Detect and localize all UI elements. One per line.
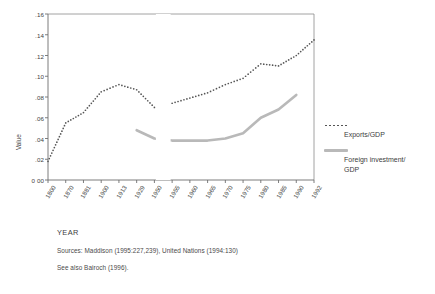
data-point-exports [285, 61, 287, 63]
y-tick-label: .08 [35, 94, 44, 101]
legend-label-exports: Exports/GDP [344, 130, 432, 140]
data-point-exports [55, 144, 57, 146]
x-tick-label: 1965 [203, 184, 216, 200]
y-tick-label: .10 [35, 73, 44, 80]
data-point-exports [130, 87, 132, 89]
data-point-exports [222, 85, 224, 87]
data-point-exports [92, 100, 94, 102]
y-tick-label: .02 [35, 156, 44, 163]
data-point-exports [96, 96, 98, 98]
data-point-exports [210, 91, 212, 93]
y-tick-label: .14 [35, 31, 44, 38]
data-point-exports [60, 133, 62, 135]
x-tick-label: 1955 [168, 184, 181, 200]
data-point-exports [57, 139, 59, 141]
data-point-exports [255, 67, 257, 69]
data-point-exports [127, 86, 129, 88]
data-point-exports [85, 109, 87, 111]
x-tick-label: 1985 [274, 184, 287, 200]
data-point-exports [90, 102, 92, 104]
data-point-exports [189, 97, 191, 99]
x-tick-label: 1975 [239, 184, 252, 200]
y-tick-label: .16 [35, 11, 44, 18]
data-point-exports [145, 98, 147, 100]
data-point-exports [180, 100, 182, 102]
data-point-exports [224, 84, 226, 86]
data-point-exports [227, 83, 229, 85]
data-point-exports [83, 112, 85, 114]
data-point-exports [136, 89, 138, 91]
data-point-exports [216, 88, 218, 90]
data-point-exports [133, 88, 135, 90]
data-point-exports [266, 64, 268, 66]
data-point-exports [278, 65, 280, 67]
data-point-exports [72, 118, 74, 120]
data-point-exports [118, 84, 120, 86]
data-point-exports [59, 136, 61, 138]
data-point-exports [302, 49, 304, 51]
data-point-exports [53, 147, 55, 149]
data-point-exports [121, 85, 123, 87]
chart-legend: Exports/GDP Foreign investment/ GDP [322, 124, 432, 175]
data-point-exports [177, 101, 179, 103]
data-point-exports [78, 115, 80, 117]
y-tick-label: 0 00 [32, 177, 44, 184]
x-tick-label: 1992 [310, 184, 323, 200]
data-point-exports [239, 79, 241, 81]
x-tick-label: 1960 [185, 184, 198, 200]
data-point-exports [47, 160, 49, 162]
data-point-exports [100, 91, 102, 93]
data-point-exports [290, 58, 292, 60]
data-point-exports [61, 130, 63, 132]
caption-block: YEAR Sources: Maddison (1995:227,239), U… [57, 228, 407, 271]
data-point-exports [106, 89, 108, 91]
data-point-exports [204, 93, 206, 95]
data-point-exports [115, 85, 117, 87]
data-point-exports [56, 141, 58, 143]
y-tick-marks [45, 14, 48, 180]
data-point-exports [275, 65, 277, 67]
data-point-exports [250, 71, 252, 73]
data-point-exports [186, 98, 188, 100]
plot-frame [48, 14, 314, 180]
data-point-exports [245, 75, 247, 77]
plot-area: 0 00.02.04.06.08.10.12.14.16 18001870188… [48, 14, 314, 180]
data-point-exports [112, 86, 114, 88]
data-point-exports [280, 64, 282, 66]
data-point-exports [67, 121, 69, 123]
data-point-exports [309, 43, 311, 45]
data-point-exports [257, 65, 259, 67]
dotted-line-swatch [324, 124, 348, 127]
data-point-exports [252, 69, 254, 71]
data-point-exports [147, 100, 149, 102]
legend-label-foreign-investment: Foreign investment/ GDP [344, 155, 432, 175]
legend-entry-exports: Exports/GDP [322, 124, 432, 140]
data-point-exports [109, 87, 111, 89]
data-point-exports [304, 47, 306, 49]
data-point-exports [307, 45, 309, 47]
data-point-exports [247, 73, 249, 75]
data-point-exports [48, 158, 50, 160]
data-point-exports [171, 102, 173, 104]
x-tick-label: 1881 [79, 184, 92, 200]
data-point-exports [94, 98, 96, 100]
data-point-exports [183, 99, 185, 101]
series-gap-mask [156, 14, 171, 180]
data-point-exports [293, 56, 295, 58]
data-point-exports [272, 64, 274, 66]
series-exports-gdp [47, 39, 315, 162]
data-point-exports [64, 125, 66, 127]
data-point-exports [298, 53, 300, 55]
data-point-exports [65, 122, 67, 124]
x-tick-label: 1900 [97, 184, 110, 200]
data-point-exports [192, 96, 194, 98]
plot-canvas [48, 14, 314, 180]
data-point-exports [201, 94, 203, 96]
data-point-exports [242, 77, 244, 79]
x-tick-label: 1980 [256, 184, 269, 200]
data-point-exports [87, 107, 89, 109]
data-point-exports [124, 85, 126, 87]
data-point-exports [80, 113, 82, 115]
legend-entry-foreign-investment: Foreign investment/ GDP [322, 149, 432, 175]
data-point-exports [213, 89, 215, 91]
